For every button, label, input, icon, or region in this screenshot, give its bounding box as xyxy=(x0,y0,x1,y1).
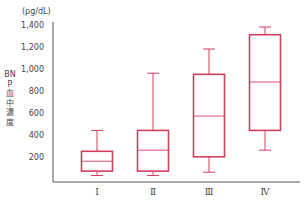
plot-area xyxy=(0,0,305,206)
box-IV xyxy=(250,35,281,131)
box-III xyxy=(194,74,225,157)
box-II xyxy=(138,130,169,171)
